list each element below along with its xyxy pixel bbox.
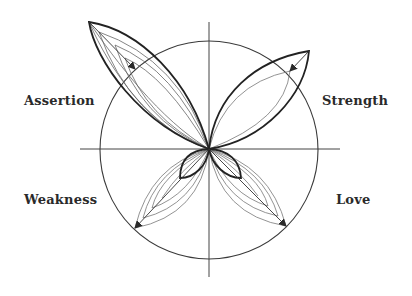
butterfly-diagram (0, 0, 412, 296)
assertion-petal-outline (89, 22, 209, 149)
assertion-petal (89, 22, 209, 149)
love-arrow (209, 149, 286, 226)
label-love: Love (336, 192, 370, 207)
label-weakness: Weakness (24, 192, 97, 207)
label-strength: Strength (322, 93, 388, 108)
label-assertion: Assertion (24, 93, 95, 108)
weakness-arrow (135, 149, 209, 228)
strength-petal-outline (209, 51, 309, 149)
